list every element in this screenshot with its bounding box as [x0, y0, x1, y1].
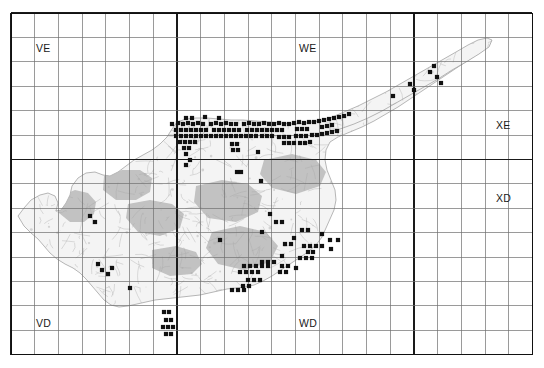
grid-label-ve: VE	[36, 43, 51, 54]
grid-label-we: WE	[299, 43, 317, 54]
grid-outer-border	[11, 13, 533, 355]
grid-label-vd: VD	[36, 318, 51, 329]
map-canvas: VE WE XE XD VD WD	[0, 0, 544, 368]
grid-label-xd: XD	[496, 193, 511, 204]
grid-label-wd: WD	[299, 318, 317, 329]
distribution-map-figure: VE WE XE XD VD WD	[0, 0, 544, 368]
grid-label-xe: XE	[496, 120, 511, 131]
